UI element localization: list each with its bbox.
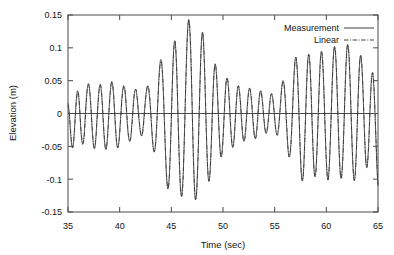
x-axis-label: Time (sec) xyxy=(201,239,246,250)
x-tick-label: 55 xyxy=(270,221,280,231)
x-tick-label: 40 xyxy=(115,221,125,231)
y-tick-label: 0.05 xyxy=(44,76,62,86)
y-tick-label: -0.15 xyxy=(41,207,62,217)
x-tick-label: 50 xyxy=(218,221,228,231)
x-tick-label: 65 xyxy=(373,221,383,231)
x-axis-tick-labels: 35404550556065 xyxy=(63,221,383,231)
chart-figure: 35404550556065 -0.15-0.1-0.0500.050.10.1… xyxy=(0,0,394,255)
y-tick-label: 0.15 xyxy=(44,10,62,20)
legend-label-measurement: Measurement xyxy=(284,23,340,33)
y-tick-label: -0.1 xyxy=(46,175,62,185)
chart-svg: 35404550556065 -0.15-0.1-0.0500.050.10.1… xyxy=(0,0,394,255)
x-tick-label: 45 xyxy=(166,221,176,231)
y-tick-label: -0.05 xyxy=(41,142,62,152)
x-tick-label: 35 xyxy=(63,221,73,231)
y-tick-label: 0 xyxy=(57,109,62,119)
y-axis-tick-labels: -0.15-0.1-0.0500.050.10.15 xyxy=(41,10,62,217)
x-tick-label: 60 xyxy=(321,221,331,231)
y-axis-label: Elevation (m) xyxy=(7,85,18,141)
legend-label-linear: Linear xyxy=(314,35,339,45)
y-tick-label: 0.1 xyxy=(49,43,62,53)
